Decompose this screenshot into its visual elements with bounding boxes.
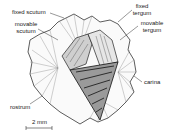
label-carina: carina: [144, 79, 160, 86]
label-movable-tergum: movable tergum: [138, 20, 166, 33]
label-fixed-scutum: fixed scutum: [12, 9, 46, 16]
label-movable-tergum-line2: tergum: [138, 27, 166, 34]
label-movable-scutum-line1: movable: [12, 21, 40, 28]
label-movable-scutum-line2: scutum: [12, 28, 40, 35]
label-movable-tergum-line1: movable: [138, 20, 166, 27]
scale-bar-label: 2 mm: [32, 119, 47, 126]
scale-bar-line: [26, 126, 52, 130]
label-movable-scutum: movable scutum: [12, 21, 40, 34]
label-fixed-tergum-line2: tergum: [130, 10, 154, 17]
label-rostrum: rostrum: [10, 104, 30, 111]
barnacle-diagram: fixed scutum movable scutum fixed tergum…: [0, 0, 172, 140]
label-fixed-tergum: fixed tergum: [130, 3, 154, 16]
